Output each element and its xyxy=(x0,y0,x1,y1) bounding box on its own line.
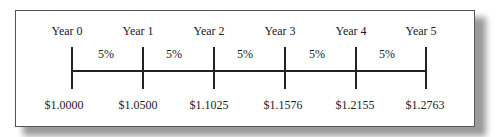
tick-year-0 xyxy=(71,47,73,89)
rate-label: 5% xyxy=(379,47,395,62)
tick-year-3 xyxy=(284,47,286,89)
tick-year-1 xyxy=(142,47,144,89)
value-label: $1.2155 xyxy=(336,98,375,113)
rate-label: 5% xyxy=(166,47,182,62)
value-label: $1.1025 xyxy=(190,98,229,113)
year-label: Year 2 xyxy=(193,24,224,39)
value-label: $1.2763 xyxy=(406,98,445,113)
tick-year-5 xyxy=(425,47,427,89)
value-label: $1.0000 xyxy=(45,98,84,113)
rate-label: 5% xyxy=(98,47,114,62)
tick-year-2 xyxy=(213,47,215,89)
timeline-axis xyxy=(72,70,427,72)
year-label: Year 5 xyxy=(405,24,436,39)
tick-year-4 xyxy=(355,47,357,89)
rate-label: 5% xyxy=(237,47,253,62)
value-label: $1.0500 xyxy=(119,98,158,113)
year-label: Year 3 xyxy=(264,24,295,39)
year-label: Year 4 xyxy=(335,24,366,39)
rate-label: 5% xyxy=(309,47,325,62)
year-label: Year 1 xyxy=(122,24,153,39)
value-label: $1.1576 xyxy=(264,98,303,113)
year-label: Year 0 xyxy=(51,24,82,39)
